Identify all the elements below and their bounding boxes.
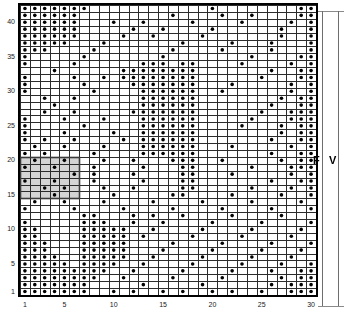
- y-tick-label: 20: [0, 156, 15, 164]
- y-tick-label: 15: [0, 191, 15, 199]
- y-tick-label: 40: [0, 18, 15, 26]
- y-tick-label: 1: [0, 288, 15, 296]
- y-tick-label: 5: [0, 260, 15, 268]
- x-tick-label: 25: [258, 301, 266, 309]
- margin-label-v: V: [329, 154, 336, 166]
- margin-divider-right: [338, 11, 339, 306]
- x-tick-label: 10: [110, 301, 118, 309]
- margin-bottom-rule: [318, 306, 344, 307]
- y-tick-label: 10: [0, 225, 15, 233]
- x-tick-label: 1: [23, 301, 27, 309]
- x-tick-label: 30: [307, 301, 315, 309]
- x-tick-label: 20: [208, 301, 216, 309]
- y-tick-label: 25: [0, 122, 15, 130]
- matrix-canvas: [20, 5, 316, 295]
- figure-root: 151015202530 1510152025303540 F V: [0, 0, 344, 325]
- margin-divider-left: [322, 11, 323, 306]
- x-tick-label: 15: [159, 301, 167, 309]
- y-tick-label: 35: [0, 53, 15, 61]
- incidence-matrix-plot: [18, 3, 318, 297]
- margin-label-f: F: [313, 154, 320, 166]
- x-tick-label: 5: [62, 301, 66, 309]
- y-tick-label: 30: [0, 87, 15, 95]
